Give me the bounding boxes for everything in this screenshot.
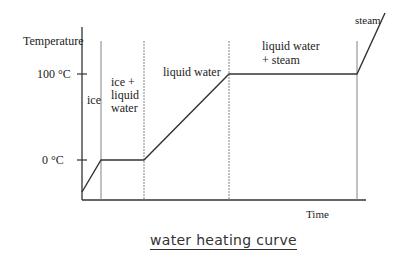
region-label-ice-liquid-2: liquid bbox=[111, 88, 139, 102]
diagram-caption: water heating curve bbox=[150, 232, 297, 250]
region-label-steam: steam bbox=[355, 14, 381, 26]
region-label-ice: ice bbox=[87, 93, 101, 107]
region-label-ice-liquid-1: ice + bbox=[111, 75, 135, 89]
heating-curve-diagram: Temperature 100 °C 0 °C ice ice + liquid… bbox=[0, 0, 401, 230]
region-label-liquid-steam-1: liquid water bbox=[262, 39, 320, 53]
tick-label-0: 0 °C bbox=[42, 153, 64, 167]
region-label-ice-liquid-3: water bbox=[111, 101, 138, 115]
tick-label-100: 100 °C bbox=[37, 67, 71, 81]
x-axis-label: Time bbox=[306, 208, 329, 220]
region-label-liquid: liquid water bbox=[163, 65, 221, 79]
y-axis-label: Temperature bbox=[23, 34, 83, 48]
region-label-liquid-steam-2: + steam bbox=[262, 53, 300, 67]
